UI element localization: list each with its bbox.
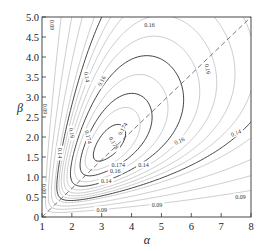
svg-text:0.09: 0.09 <box>96 207 107 213</box>
contour-label: 0.16 <box>142 22 157 29</box>
contour-chart: 0.090.090.090.090.090.090.140.140.140.14… <box>0 0 267 251</box>
svg-text:0.14: 0.14 <box>57 148 63 159</box>
x-axis-label: α <box>144 233 151 247</box>
x-axis-ticks: 12345678 <box>39 213 253 232</box>
y-tick-label: 3.0 <box>26 92 39 103</box>
contour-label: 0.14 <box>99 178 114 185</box>
svg-text:0.16: 0.16 <box>110 168 121 174</box>
x-tick-label: 3 <box>99 221 104 232</box>
contour-label: 0.174 <box>115 119 130 138</box>
contour-label: 0.09 <box>233 194 248 201</box>
svg-text:0.09: 0.09 <box>152 202 163 208</box>
svg-text:0.14: 0.14 <box>101 178 112 184</box>
contour-line-minor <box>48 17 251 209</box>
x-tick-label: 4 <box>129 221 135 232</box>
y-tick-label: 1.5 <box>26 152 39 163</box>
contour-label: 0.16 <box>108 168 123 175</box>
contour-label: 0.09 <box>94 206 109 213</box>
x-tick-label: 6 <box>189 221 194 232</box>
y-tick-label: 4.5 <box>26 32 39 43</box>
svg-text:0.174: 0.174 <box>117 122 129 137</box>
contour-label: 0.09 <box>150 202 165 209</box>
contour-label: 0.16 <box>203 61 212 77</box>
svg-text:0.174: 0.174 <box>111 162 125 168</box>
y-tick-label: 2.5 <box>26 112 39 123</box>
svg-text:0.16: 0.16 <box>144 22 155 28</box>
svg-text:0.09: 0.09 <box>235 194 246 200</box>
y-tick-label: 3.5 <box>26 72 39 83</box>
contour-label: 0.14 <box>56 146 63 161</box>
x-tick-label: 1 <box>39 221 44 232</box>
x-tick-label: 8 <box>248 221 253 232</box>
x-tick-label: 7 <box>219 221 224 232</box>
y-tick-label: 0 <box>34 212 39 223</box>
contour-label: 0.14 <box>82 69 91 85</box>
contour-label: 0.16 <box>171 135 187 148</box>
svg-text:0.09: 0.09 <box>49 20 55 31</box>
contour-label: 0.09 <box>49 18 56 33</box>
y-tick-label: 1.0 <box>26 172 39 183</box>
y-tick-label: 2.0 <box>26 132 39 143</box>
x-tick-label: 2 <box>69 221 74 232</box>
contour-label: 0.09 <box>41 102 48 117</box>
y-axis-label: β <box>16 101 23 115</box>
y-tick-label: 5.0 <box>26 12 39 23</box>
contour-line-minor <box>67 36 200 190</box>
contour-line-minor <box>61 17 235 196</box>
svg-text:0.14: 0.14 <box>138 162 149 168</box>
x-tick-label: 5 <box>159 221 164 232</box>
contour-lines <box>45 17 251 212</box>
y-tick-label: 0.5 <box>26 192 39 203</box>
svg-text:0.09: 0.09 <box>42 104 48 115</box>
contour-label: 0.14 <box>136 162 151 169</box>
contour-label: 0.174 <box>83 127 94 146</box>
contour-label: 0.174 <box>109 162 127 169</box>
y-tick-label: 4.0 <box>26 52 39 63</box>
